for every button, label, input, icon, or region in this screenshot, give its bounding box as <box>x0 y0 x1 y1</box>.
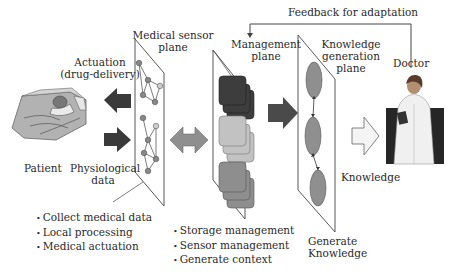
doctor-image <box>386 75 444 164</box>
actuation-label: Actuation (drug-delivery) <box>56 56 144 80</box>
management-bullets: Storage management Sensor management Gen… <box>173 224 294 268</box>
patient-label: Patient <box>24 162 62 174</box>
physiological-label: Physiological data <box>70 162 136 186</box>
doctor-label: Doctor <box>393 57 429 69</box>
knowledge-arrow <box>352 117 379 155</box>
actuation-arrow <box>104 88 131 113</box>
bullet-item: Medical actuation <box>36 240 152 255</box>
bullet-item: Sensor management <box>173 239 294 254</box>
knowledge-label: Knowledge <box>341 171 400 183</box>
management-plane-label: Management plane <box>228 38 304 62</box>
bullet-item: Storage management <box>173 224 294 239</box>
physiological-arrow <box>104 127 131 152</box>
management-to-knowledge-arrow <box>268 97 298 129</box>
generate-knowledge-label: Generate Knowledge <box>308 235 367 259</box>
sensor-bullets: Collect medical data Local processing Me… <box>36 211 152 255</box>
patient-image <box>12 88 86 140</box>
bidirectional-arrow <box>170 127 208 153</box>
knowledge-plane-label: Knowledge generation plane <box>318 38 384 74</box>
bullet-item: Local processing <box>36 226 152 241</box>
bullet-item: Generate context <box>173 253 294 268</box>
management-plane <box>213 50 254 219</box>
bullet-item: Collect medical data <box>36 211 152 226</box>
sensor-plane-label: Medical sensor plane <box>131 29 215 53</box>
feedback-label: Feedback for adaptation <box>288 6 418 18</box>
